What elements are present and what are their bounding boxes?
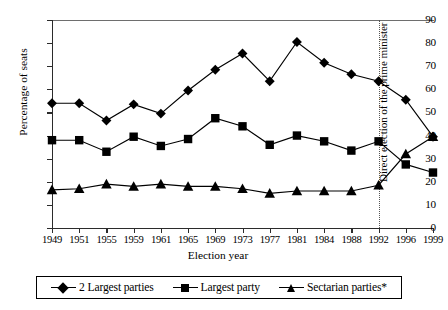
chart-legend: 2 Largest parties Largest party Sectaria… [36, 276, 402, 299]
square-data-point [129, 133, 137, 141]
legend-item-largest-party[interactable]: Largest party [173, 281, 260, 294]
square-data-point [184, 135, 192, 143]
diamond-data-point [319, 58, 329, 68]
square-data-point [374, 137, 382, 145]
square-data-point [402, 160, 410, 168]
square-data-point [266, 141, 274, 149]
square-data-point [429, 168, 437, 176]
square-marker-icon [173, 282, 198, 293]
diamond-data-point [401, 95, 411, 105]
square-data-point [211, 114, 219, 122]
square-data-point [75, 136, 83, 144]
legend-label: 2 Largest parties [79, 281, 154, 294]
diamond-data-point [210, 65, 220, 75]
diamond-data-point [129, 99, 139, 109]
square-data-point [48, 136, 56, 144]
diamond-data-point [74, 98, 84, 108]
legend-item-2-largest-parties[interactable]: 2 Largest parties [51, 281, 154, 294]
legend-item-sectarian-parties[interactable]: Sectarian parties* [279, 281, 387, 294]
diamond-data-point [101, 116, 111, 126]
diamond-data-point [47, 98, 57, 108]
square-data-point [238, 122, 246, 130]
diamond-marker-icon [51, 282, 76, 293]
diamond-data-point [292, 37, 302, 47]
diamond-data-point [374, 76, 384, 86]
legend-label: Sectarian parties* [307, 281, 387, 294]
triangle-data-point [101, 179, 112, 189]
triangle-marker-icon [279, 282, 304, 293]
diamond-data-point [346, 69, 356, 79]
square-data-point [320, 137, 328, 145]
legend-label: Largest party [201, 281, 260, 294]
triangle-data-point [156, 179, 167, 189]
square-data-point [157, 142, 165, 150]
square-data-point [102, 148, 110, 156]
triangle-data-point [401, 149, 412, 159]
square-data-point [347, 146, 355, 154]
square-data-point [293, 131, 301, 139]
